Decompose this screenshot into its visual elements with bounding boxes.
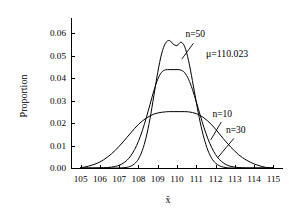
x-tick-label: 111 — [190, 174, 204, 184]
y-tick-label: 0.04 — [50, 73, 66, 83]
y-tick-label: 0.06 — [50, 28, 66, 38]
y-tick-label: 0.01 — [50, 141, 66, 151]
mu-annotation: μ=110.023 — [206, 48, 248, 59]
x-tick-label: 108 — [132, 174, 146, 184]
n10-leader — [211, 122, 222, 140]
x-tick-label: 114 — [247, 174, 261, 184]
curve-group — [81, 40, 274, 168]
y-tick-label: 0.00 — [50, 163, 66, 173]
n50-label: n=50 — [186, 29, 206, 39]
n10-label: n=10 — [212, 109, 232, 119]
y-axis-tick-labels: 0.000.010.020.030.040.050.06 — [50, 28, 66, 173]
y-tick-label: 0.02 — [50, 118, 66, 128]
y-axis-tick-marks — [72, 34, 75, 169]
curve-n10 — [81, 112, 274, 168]
x-tick-label: 109 — [151, 174, 165, 184]
sampling-distribution-chart: Proportion x̄ 0.000.010.020.030.040.050.… — [0, 0, 289, 212]
y-tick-label: 0.05 — [50, 51, 66, 61]
annotation-group: μ=110.023n=50n=10n=30 — [186, 29, 249, 136]
y-axis-title: Proportion — [18, 75, 29, 118]
curve-n30 — [81, 70, 274, 168]
x-tick-label: 105 — [74, 174, 88, 184]
x-tick-label: 115 — [267, 174, 281, 184]
chart-figure: Proportion x̄ 0.000.010.020.030.040.050.… — [0, 0, 289, 212]
n30-label: n=30 — [226, 125, 246, 135]
leader-line-group — [182, 43, 234, 158]
x-tick-label: 110 — [170, 174, 184, 184]
y-tick-label: 0.03 — [50, 96, 66, 106]
axis-lines — [72, 18, 284, 169]
x-axis-tick-labels: 105106107108109110111112113114115 — [74, 174, 281, 184]
x-axis-title: x̄ — [166, 194, 171, 205]
curve-n50 — [81, 40, 274, 168]
x-tick-label: 106 — [93, 174, 107, 184]
x-tick-label: 107 — [112, 174, 126, 184]
x-tick-label: 113 — [228, 174, 242, 184]
x-tick-label: 112 — [209, 174, 223, 184]
